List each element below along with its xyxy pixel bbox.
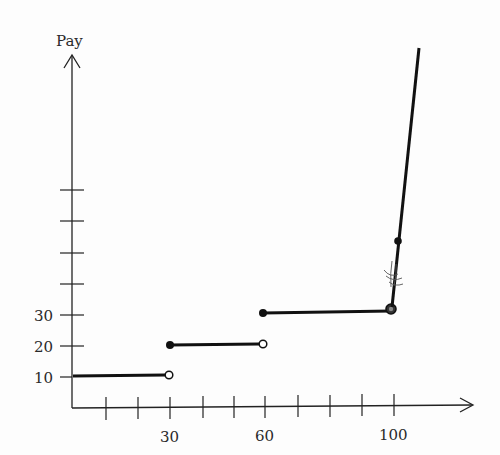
x-tick-label-60: 60 xyxy=(255,427,274,445)
open-endpoint xyxy=(259,340,267,348)
x-tick-label-30: 30 xyxy=(160,428,179,446)
series-tier-3 xyxy=(259,304,396,317)
y-tick-label-20: 20 xyxy=(34,338,53,356)
pay-step-chart: Pay 30 20 10 30 60 100 xyxy=(0,0,500,455)
y-tick-label-10: 10 xyxy=(34,369,53,387)
closed-point xyxy=(394,237,402,245)
y-axis-label: Pay xyxy=(56,32,83,50)
series-tier-2 xyxy=(166,340,267,349)
open-endpoint xyxy=(165,371,173,379)
x-tick-label-100: 100 xyxy=(379,426,408,444)
y-tick-label-30: 30 xyxy=(34,307,53,325)
x-axis xyxy=(72,405,472,408)
series-tier-1 xyxy=(73,371,173,379)
